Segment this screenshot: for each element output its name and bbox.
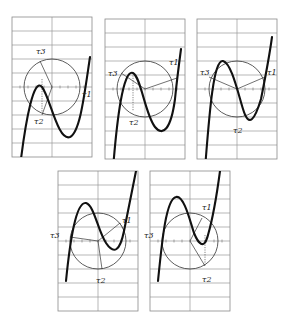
panel-graph: τ3τ1τ2 [150,171,230,311]
panel-3: τ3τ1τ2 [197,19,277,159]
tau-label: τ2 [233,126,243,135]
cubic-curve [20,57,90,167]
panel-5: τ3τ1τ2 [150,171,230,311]
tau-label: τ3 [108,69,118,78]
panel-2: τ3τ1τ2 [105,19,185,159]
tau-label: τ1 [169,58,179,67]
panel-graph: τ3τ1τ2 [58,171,138,311]
cubic-curve [113,49,181,169]
panel-graph: τ3τ1τ2 [197,19,277,159]
tau-label: τ1 [202,203,212,212]
cubic-curve [66,171,136,281]
panel-graph: τ3τ1τ2 [12,17,92,157]
tau-label: τ1 [267,68,277,77]
radius-line [40,61,52,87]
tau-label: τ3 [144,231,154,240]
panel-4: τ3τ1τ2 [58,171,138,311]
tau-label: τ1 [122,216,132,225]
tau-label: τ3 [50,231,60,240]
radius-line [237,77,265,89]
cubic-curve [158,171,220,281]
tau-label: τ2 [96,276,106,285]
tau-label: τ2 [34,117,44,126]
tau-label: τ2 [129,118,139,127]
tau-label: τ2 [202,275,212,284]
tau-label: τ3 [200,68,210,77]
tau-label: τ1 [82,90,92,99]
panel-graph: τ3τ1τ2 [105,19,185,159]
tau-label: τ3 [36,47,46,56]
panel-1: τ3τ1τ2 [12,17,92,157]
